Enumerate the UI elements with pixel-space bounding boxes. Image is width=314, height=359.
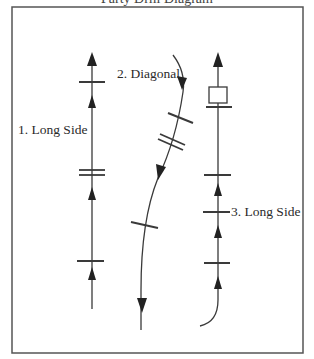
arrow-up-icon: [213, 52, 223, 67]
arrow-up-icon: [214, 276, 222, 289]
square-marker-icon: [209, 87, 227, 103]
arrow-up-icon: [214, 225, 222, 238]
path-2-diagonal: [131, 55, 193, 330]
arrow-up-icon: [88, 187, 96, 200]
single-tick-mark: [131, 222, 158, 228]
path-2-label: 2. Diagonal: [117, 66, 180, 81]
path-3-long-side: [200, 52, 232, 326]
arrow-down-icon: [137, 298, 147, 313]
arrow-up-icon: [88, 95, 96, 108]
double-tick-mark: [160, 134, 185, 145]
diagram-canvas: 1. Long Side 2. Diagonal: [0, 0, 314, 359]
arrow-up-icon: [87, 52, 97, 66]
arrow-up-icon: [214, 183, 222, 196]
path-2-curve: [141, 55, 184, 330]
path-1-long-side: [77, 52, 105, 309]
arrow-up-icon: [88, 267, 96, 280]
path-1-label: 1. Long Side: [18, 122, 87, 137]
path-3-label: 3. Long Side: [231, 204, 300, 219]
single-tick-mark: [168, 113, 193, 123]
